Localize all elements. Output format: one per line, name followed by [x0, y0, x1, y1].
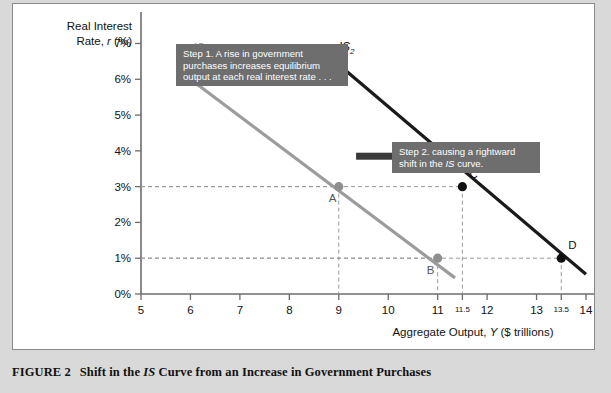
x-tick-label: 5 — [138, 304, 144, 316]
caption-text-after: Curve from an Increase in Government Pur… — [155, 365, 431, 379]
x-tick-label: 12 — [481, 304, 494, 316]
x-tick-label: 11.5 — [455, 305, 471, 314]
x-tick-label: 8 — [286, 304, 292, 316]
data-point-label-A: A — [329, 192, 337, 204]
callout-line: shift in the IS curve. — [399, 158, 483, 169]
callout-line: Step 2. causing a rightward — [399, 146, 515, 157]
data-point-D — [557, 254, 566, 263]
y-tick-label: 6% — [114, 73, 131, 85]
x-tick-label: 9 — [336, 304, 342, 316]
caption-italic-is: IS — [143, 365, 155, 379]
caption-text-before: Shift in the — [80, 365, 143, 379]
y-tick-label: 3% — [114, 181, 131, 193]
callout-step-2: Step 2. causing a rightwardshift in the … — [392, 142, 540, 173]
callout-line: Step 1. A rise in government — [183, 48, 303, 59]
y-tick-label: 1% — [114, 252, 131, 264]
data-point-A — [334, 182, 343, 191]
y-tick-label: 4% — [114, 145, 131, 157]
data-point-C — [458, 182, 467, 191]
x-tick-label: 11 — [432, 304, 444, 316]
figure-caption: FIGURE 2Shift in the IS Curve from an In… — [12, 365, 592, 380]
figure-number: FIGURE 2 — [12, 365, 71, 379]
data-point-label-B: B — [427, 264, 435, 276]
data-point-label-D: D — [568, 239, 576, 251]
y-tick-label: 5% — [114, 109, 131, 121]
callout-line: purchases increases equilibrium — [183, 60, 320, 71]
x-axis-title: Aggregate Output, Y ($ trillions) — [392, 326, 553, 338]
x-tick-label: 13.5 — [553, 305, 569, 314]
data-point-B — [433, 254, 442, 263]
x-tick-label: 7 — [237, 304, 243, 316]
y-tick-label: 2% — [114, 216, 131, 228]
callout-step-1: Step 1. A rise in governmentpurchases in… — [176, 44, 348, 86]
callout-line: output at each real interest rate . . . — [183, 71, 332, 82]
y-axis-title-line1: Real Interest — [67, 20, 133, 32]
y-tick-label: 0% — [114, 288, 131, 300]
x-tick-label: 10 — [382, 304, 395, 316]
is-curve-chart: 0%1%2%3%4%5%6%7%56789101111.5121313.514R… — [13, 4, 596, 349]
x-tick-label: 13 — [530, 304, 543, 316]
y-axis-title-line2: Rate, r (%) — [76, 35, 132, 47]
x-tick-label: 6 — [187, 304, 193, 316]
x-tick-label: 14 — [580, 304, 593, 316]
curve-IS1 — [190, 79, 455, 278]
figure-panel: 0%1%2%3%4%5%6%7%56789101111.5121313.514R… — [12, 3, 595, 350]
